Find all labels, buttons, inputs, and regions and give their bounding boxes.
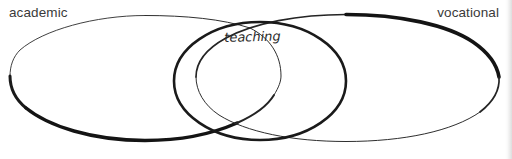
vocational-arc-top-right xyxy=(346,15,499,78)
academic-arc-bottom-right xyxy=(237,95,274,123)
academic-arc-top-left xyxy=(10,16,145,77)
academic-arc-left xyxy=(10,76,26,108)
academic-arc-right xyxy=(145,16,281,96)
academic-arc-bottom-left xyxy=(26,108,237,141)
set-label-vocational: vocational xyxy=(437,6,499,20)
venn-diagram-canvas xyxy=(0,0,512,159)
set-label-teaching: teaching xyxy=(224,30,281,44)
vocational-arc-right xyxy=(480,77,499,112)
venn-diagram-figure: academic vocational teaching xyxy=(0,0,512,159)
vocational-arc-bottom xyxy=(196,77,480,142)
set-label-academic: academic xyxy=(9,6,68,20)
